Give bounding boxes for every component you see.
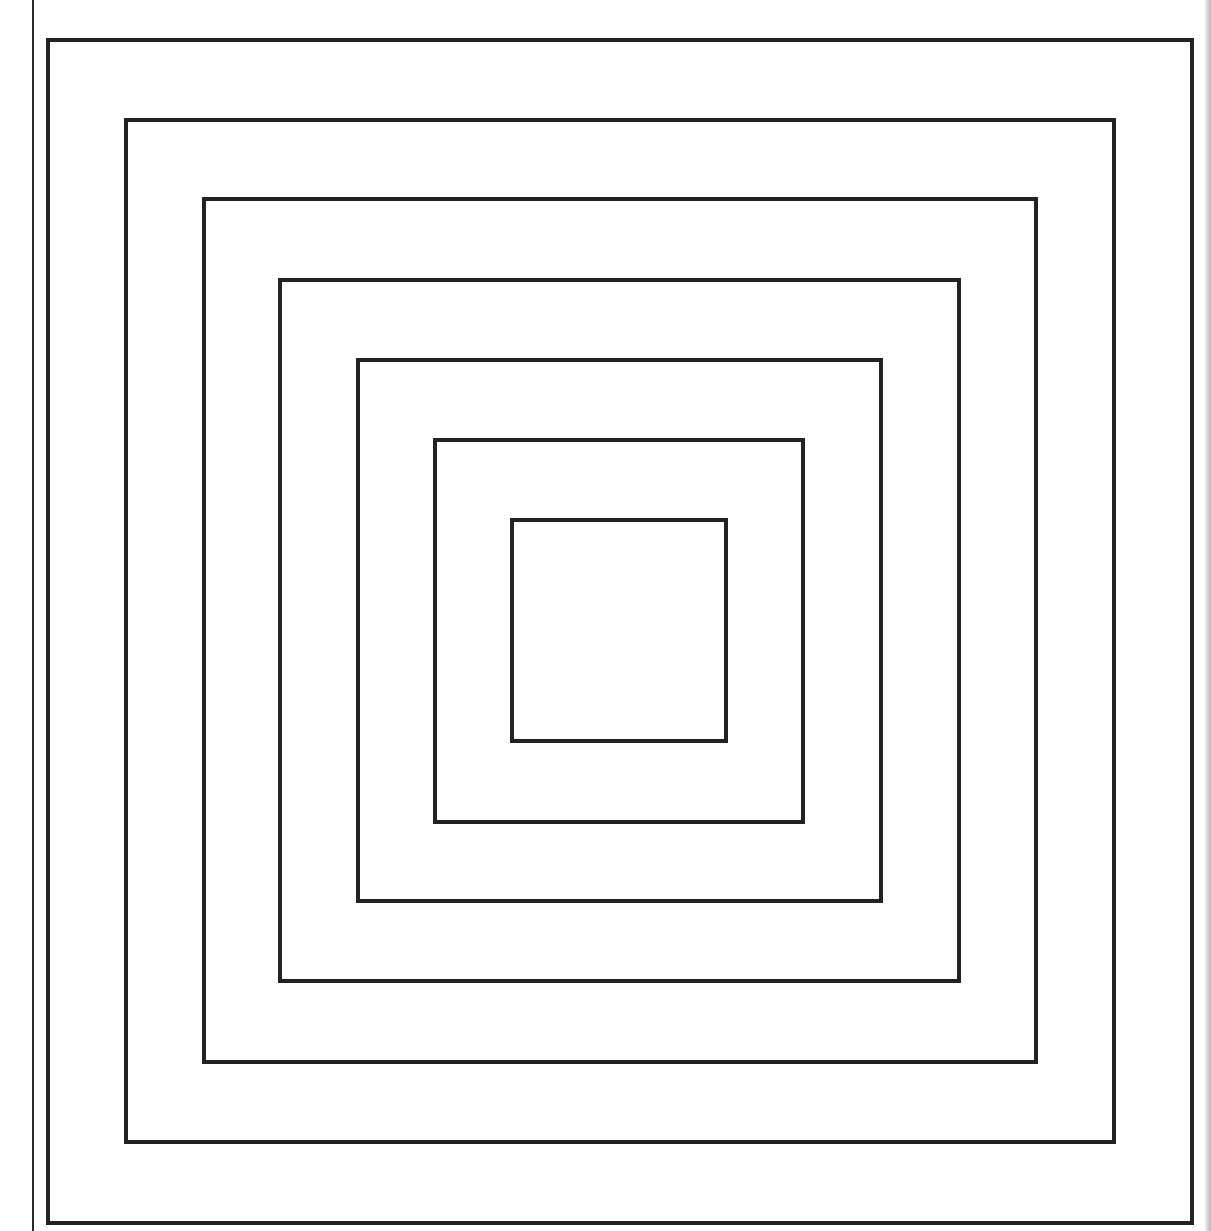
concentric-squares-diagram bbox=[0, 0, 1211, 1231]
square-7 bbox=[510, 518, 728, 743]
page-edge-shadow bbox=[1205, 0, 1211, 1231]
document-page bbox=[0, 0, 1211, 1231]
